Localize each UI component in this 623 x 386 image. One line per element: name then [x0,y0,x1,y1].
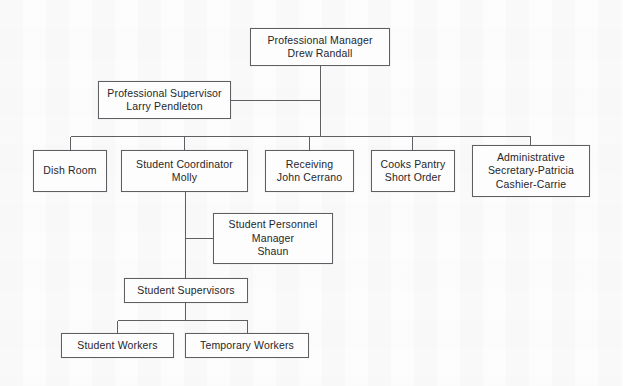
node-line: Dish Room [43,164,96,178]
node-professional-supervisor[interactable]: Professional Supervisor Larry Pendleton [98,81,231,119]
node-line: John Cerrano [277,171,342,185]
node-line: Student Coordinator [136,158,233,172]
node-student-workers[interactable]: Student Workers [61,333,174,358]
node-line: Professional Manager [267,34,372,48]
node-cooks-pantry[interactable]: Cooks Pantry Short Order [371,150,455,192]
node-line: Student Workers [77,339,157,353]
node-line: Larry Pendleton [126,100,202,114]
node-line: Shaun [257,245,288,259]
node-administrative[interactable]: Administrative Secretary-Patricia Cashie… [472,145,590,197]
node-line: Temporary Workers [200,339,294,353]
node-student-supervisors[interactable]: Student Supervisors [124,278,248,303]
node-line: Student Supervisors [137,284,234,298]
node-line: Cooks Pantry [381,158,446,172]
node-line: Receiving [286,158,333,172]
node-line: Manager [252,232,295,246]
node-professional-manager[interactable]: Professional Manager Drew Randall [250,28,390,66]
node-line: Short Order [385,171,442,185]
node-line: Drew Randall [288,47,353,61]
node-line: Student Personnel [229,218,318,232]
node-line: Professional Supervisor [107,87,221,101]
node-line: Secretary-Patricia [488,164,574,178]
node-line: Cashier-Carrie [496,178,566,192]
node-line: Molly [172,171,197,185]
node-student-personnel-manager[interactable]: Student Personnel Manager Shaun [213,213,333,264]
node-receiving[interactable]: Receiving John Cerrano [265,150,354,192]
org-chart: Professional Manager Drew Randall Profes… [0,0,623,386]
node-student-coordinator[interactable]: Student Coordinator Molly [121,150,248,192]
node-line: Administrative [497,151,565,165]
node-temporary-workers[interactable]: Temporary Workers [185,333,309,358]
node-dish-room[interactable]: Dish Room [33,150,107,192]
